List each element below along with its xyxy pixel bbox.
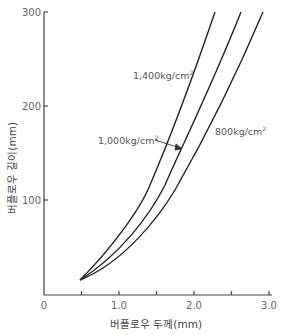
curve-1000: [80, 12, 241, 280]
x-axis-title: 버플로우 두께(mm): [110, 318, 202, 330]
label-1000: 1,000kg/cm2: [98, 134, 158, 146]
curve-800: [80, 12, 263, 280]
x-tick-label-1: 1.0: [111, 300, 127, 311]
label-800: 800kg/cm2: [215, 125, 266, 137]
x-tick-label-3: 3.0: [261, 300, 277, 311]
axes: [44, 12, 272, 295]
x-tick-label-2: 2.0: [186, 300, 202, 311]
label-1400: 1,400kg/cm2: [133, 69, 193, 81]
y-tick-label-100: 100: [22, 195, 41, 206]
y-axis-title: 버플로우 길이(mm): [6, 122, 18, 214]
curve-1400: [80, 12, 215, 280]
y-tick-label-300: 300: [22, 7, 41, 18]
chart: 300 200 100 0 1.0 2.0 3.0 버플로우 두께(mm) 버플…: [0, 0, 282, 335]
series-curves: [80, 12, 263, 280]
y-tick-label-200: 200: [22, 101, 41, 112]
x-tick-label-0: 0: [41, 300, 47, 311]
